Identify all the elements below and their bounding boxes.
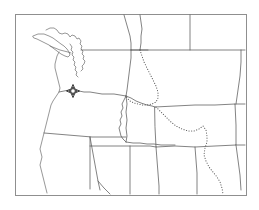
map-canvas[interactable] [0, 0, 259, 210]
map-screenshot: Pacific Northwest Reference Map Outline … [0, 0, 259, 210]
